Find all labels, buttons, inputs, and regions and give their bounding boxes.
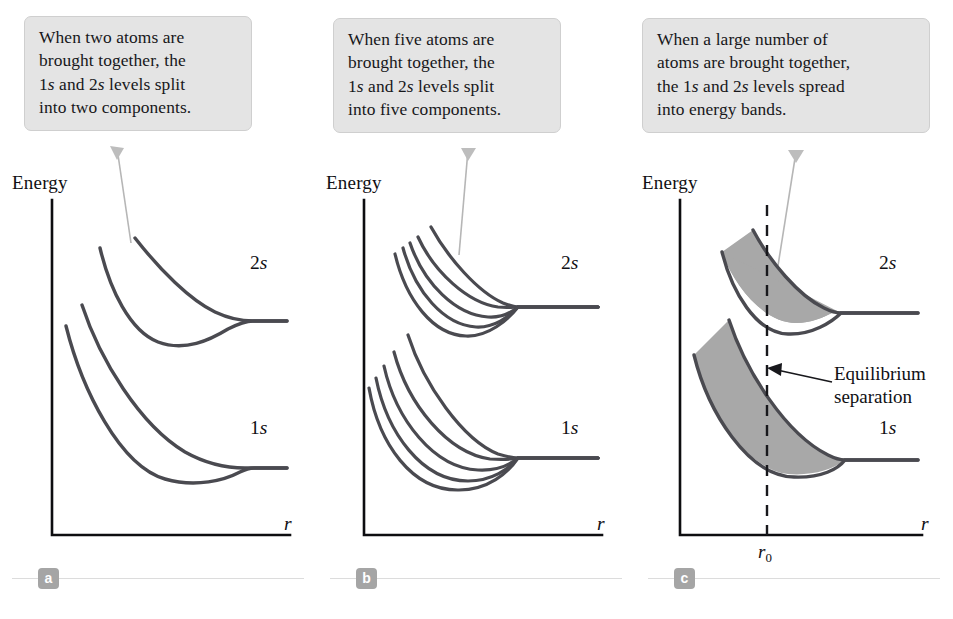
axes-a	[52, 200, 290, 535]
callout-leader-c	[777, 152, 796, 272]
curve-1s-5-b	[369, 388, 598, 490]
equilibrium-arrow-head	[767, 363, 782, 376]
curve-1s-1-b	[408, 335, 598, 458]
equilibrium-arrow-shaft	[777, 370, 832, 382]
panel-c: When a large number of atoms are brought…	[636, 0, 953, 619]
curve-2s-1-b	[431, 227, 598, 307]
band-2s-fill2-c	[722, 252, 841, 323]
panel-a: When two atoms are brought together, the…	[0, 0, 318, 619]
curve-1s-upper-a	[82, 305, 287, 468]
callout-tail-c	[788, 150, 804, 163]
callout-leader-b	[459, 150, 468, 255]
plot-b	[318, 0, 636, 619]
callout-tail-b	[461, 148, 476, 161]
curve-1s-3-b	[384, 366, 598, 470]
band-formation-figure: When two atoms are brought together, the…	[0, 0, 953, 619]
plot-a	[0, 0, 318, 619]
callout-tail-a	[110, 146, 124, 160]
panel-badge-b: b	[356, 568, 377, 589]
curve-2s-upper-a	[135, 238, 287, 321]
callout-leader-a	[117, 148, 131, 243]
panel-badge-a: a	[38, 568, 59, 589]
plot-c	[636, 0, 953, 619]
panel-badge-c: c	[674, 568, 695, 589]
panel-b: When five atoms are brought together, th…	[318, 0, 636, 619]
